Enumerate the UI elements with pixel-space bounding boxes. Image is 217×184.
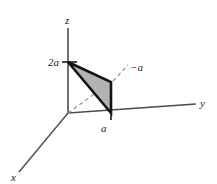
figure-canvas: z y x 2a a −a bbox=[0, 0, 217, 184]
x-axis-line bbox=[19, 113, 68, 172]
y-axis-label: y bbox=[199, 97, 205, 109]
leader-line-negative-a bbox=[113, 65, 128, 81]
y-axis-line bbox=[68, 104, 196, 113]
z-axis-value-label-2a: 2a bbox=[48, 56, 60, 68]
z-axis-label: z bbox=[64, 14, 70, 26]
x-axis-label: x bbox=[10, 171, 16, 183]
shaded-triangle bbox=[68, 62, 111, 113]
y-axis-value-label-a: a bbox=[101, 122, 107, 134]
coordinate-axes-figure: z y x 2a a −a bbox=[0, 0, 217, 184]
vertex-value-label-negative-a: −a bbox=[130, 61, 143, 73]
